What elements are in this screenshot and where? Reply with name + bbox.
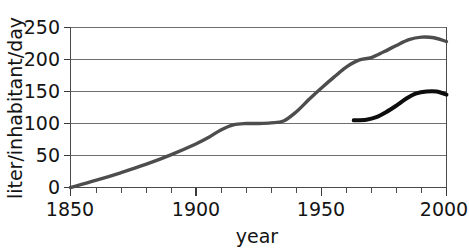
y-tick-label-0: 0 xyxy=(48,176,60,198)
x-tick-label-1850: 1850 xyxy=(46,198,94,220)
y-tick-label-150: 150 xyxy=(24,80,60,102)
x-tick-label-1900: 1900 xyxy=(172,198,220,220)
line-chart-canvas: 250 200 150 100 50 0 1850 1900 1950 2000… xyxy=(0,0,469,250)
y-axis-tick-labels: 250 200 150 100 50 0 xyxy=(24,16,60,198)
x-axis-minor-ticks xyxy=(97,188,422,193)
x-axis-tick-labels: 1850 1900 1950 2000 xyxy=(46,198,468,220)
y-tick-label-50: 50 xyxy=(36,144,60,166)
y-tick-label-200: 200 xyxy=(24,48,60,70)
y-axis-ticks xyxy=(64,28,70,188)
chart-figure: 250 200 150 100 50 0 1850 1900 1950 2000… xyxy=(0,0,469,250)
x-axis-major-ticks xyxy=(71,188,447,196)
y-tick-label-250: 250 xyxy=(24,16,60,38)
series-line-1 xyxy=(354,91,447,120)
y-tick-label-100: 100 xyxy=(24,112,60,134)
x-tick-label-1950: 1950 xyxy=(297,198,345,220)
x-tick-label-2000: 2000 xyxy=(420,198,468,220)
y-axis-title: liter/inhabitant/day xyxy=(4,17,26,199)
x-axis-title: year xyxy=(236,225,279,247)
